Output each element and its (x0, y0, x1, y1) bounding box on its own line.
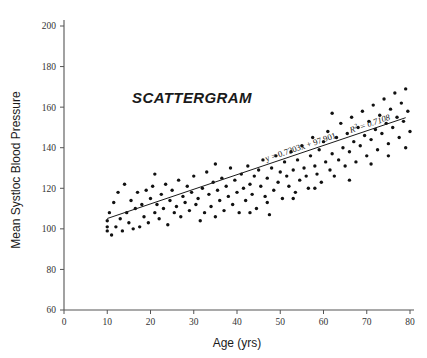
data-point (393, 91, 396, 94)
data-point (244, 199, 247, 202)
data-point (112, 201, 115, 204)
data-point (214, 162, 217, 165)
data-point (246, 164, 249, 167)
y-axis: 6080100120140160180200 (42, 20, 64, 315)
y-tick-label: 100 (42, 224, 57, 234)
data-point (147, 221, 150, 224)
data-point (292, 168, 295, 171)
data-point (365, 154, 368, 157)
data-point (313, 187, 316, 190)
x-tick-label: 30 (189, 317, 199, 327)
data-point (270, 166, 273, 169)
data-point (194, 203, 197, 206)
data-point (317, 148, 320, 151)
data-point (369, 138, 372, 141)
data-point (233, 178, 236, 181)
y-tick-label: 60 (47, 305, 57, 315)
x-axis: 01020304050607080 (62, 310, 415, 327)
data-point (192, 174, 195, 177)
data-point (155, 203, 158, 206)
data-point (140, 203, 143, 206)
data-point (231, 203, 234, 206)
regression-line (107, 118, 405, 219)
data-point (224, 185, 227, 188)
data-point (341, 146, 344, 149)
data-point (354, 160, 357, 163)
data-point (166, 223, 169, 226)
data-point (183, 201, 186, 204)
data-point (255, 207, 258, 210)
data-point (142, 215, 145, 218)
data-point (361, 110, 364, 113)
data-point (250, 193, 253, 196)
data-point (363, 134, 366, 137)
data-point (404, 146, 407, 149)
data-point (397, 136, 400, 139)
data-point (106, 229, 109, 232)
data-point (227, 195, 230, 198)
data-point (281, 197, 284, 200)
x-axis-title: Age (yrs) (213, 336, 262, 350)
data-point (207, 193, 210, 196)
r-squared-label: R2 = 0.7108 (347, 111, 392, 135)
data-point (188, 209, 191, 212)
data-point (181, 195, 184, 198)
data-point (387, 154, 390, 157)
data-point (106, 219, 109, 222)
y-tick-label: 200 (42, 21, 57, 31)
data-point (127, 221, 130, 224)
data-point (400, 101, 403, 104)
data-point (333, 174, 336, 177)
data-point (324, 160, 327, 163)
data-point (287, 185, 290, 188)
y-tick-label: 180 (42, 62, 57, 72)
data-point (266, 176, 269, 179)
data-point (330, 152, 333, 155)
data-point (151, 185, 154, 188)
data-point (110, 233, 113, 236)
data-point (376, 148, 379, 151)
scatter-chart: 6080100120140160180200 01020304050607080… (0, 0, 427, 358)
x-tick-label: 60 (319, 317, 329, 327)
data-point (313, 164, 316, 167)
data-point (404, 87, 407, 90)
data-point (138, 225, 141, 228)
data-point (214, 215, 217, 218)
data-point (164, 183, 167, 186)
data-point (153, 172, 156, 175)
data-point (292, 197, 295, 200)
data-point (248, 211, 251, 214)
data-point (391, 126, 394, 129)
data-point (153, 211, 156, 214)
data-point (285, 174, 288, 177)
data-point (337, 158, 340, 161)
x-tick-label: 50 (276, 317, 286, 327)
data-point (257, 168, 260, 171)
x-tick-label: 0 (62, 317, 67, 327)
data-point (296, 158, 299, 161)
data-point (253, 174, 256, 177)
data-point (382, 97, 385, 100)
data-point (248, 183, 251, 186)
data-point (175, 205, 178, 208)
data-point (268, 213, 271, 216)
x-tick-label: 40 (232, 317, 242, 327)
data-point (119, 217, 122, 220)
data-point (149, 197, 152, 200)
data-point (402, 120, 405, 123)
x-tick-label: 20 (146, 317, 156, 327)
data-point (328, 168, 331, 171)
data-point (348, 150, 351, 153)
data-point (283, 160, 286, 163)
x-tick-label: 80 (405, 317, 415, 327)
data-point (173, 211, 176, 214)
data-point (129, 199, 132, 202)
y-axis-title: Mean Systloc Blood Pressure (9, 91, 23, 249)
data-point (279, 170, 282, 173)
data-point (343, 164, 346, 167)
data-point (369, 162, 372, 165)
data-point (123, 183, 126, 186)
data-point (179, 215, 182, 218)
data-point (263, 195, 266, 198)
regression-annotations: y = 0.7203x + 97.901R2 = 0.7108 (264, 111, 392, 164)
